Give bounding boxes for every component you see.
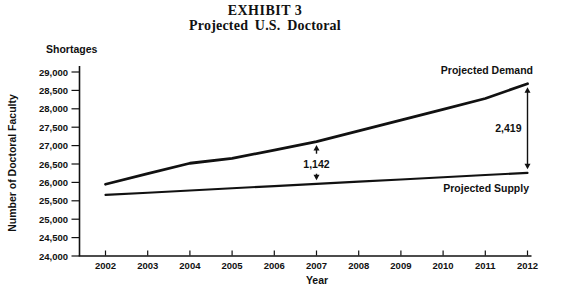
x-tick-label: 2011 bbox=[475, 260, 496, 271]
y-tick-label: 27,000 bbox=[39, 140, 68, 151]
annotation-label: 1,142 bbox=[303, 158, 329, 170]
x-tick-label: 2010 bbox=[433, 260, 454, 271]
annotation-label: 2,419 bbox=[495, 122, 521, 134]
y-tick-label: 28,500 bbox=[39, 85, 68, 96]
x-tick-label: 2003 bbox=[137, 260, 158, 271]
y-tick-label: 26,000 bbox=[39, 177, 68, 188]
x-tick-label: 2004 bbox=[179, 260, 201, 271]
y-tick-label: 25,500 bbox=[39, 195, 68, 206]
y-tick-label: 29,000 bbox=[39, 67, 68, 78]
y-tick-label: 26,500 bbox=[39, 159, 68, 170]
demand-series-label: Projected Demand bbox=[441, 64, 533, 76]
arrowhead-up-icon bbox=[314, 145, 320, 151]
x-axis-title: Year bbox=[306, 274, 328, 286]
y-axis-title: Number of Doctoral Faculty bbox=[6, 94, 18, 232]
arrowhead-up-icon bbox=[525, 87, 531, 93]
exhibit-figure: EXHIBIT 3 Projected U.S. Doctoral 29,000… bbox=[0, 0, 566, 291]
arrowhead-down-icon bbox=[525, 164, 531, 170]
y-tick-label: 24,500 bbox=[39, 232, 68, 243]
x-tick-label: 2006 bbox=[264, 260, 285, 271]
x-tick-label: 2007 bbox=[306, 260, 327, 271]
y-tick-label: 27,500 bbox=[39, 122, 68, 133]
y-tick-label: 24,000 bbox=[39, 251, 68, 262]
x-tick-label: 2009 bbox=[390, 260, 411, 271]
x-tick-label: 2005 bbox=[222, 260, 244, 271]
line-chart: 29,00028,50028,00027,50027,00026,50026,0… bbox=[0, 0, 566, 291]
x-tick-label: 2012 bbox=[517, 260, 538, 271]
plot-area: 29,00028,50028,00027,50027,00026,50026,0… bbox=[39, 66, 538, 271]
supply-series-label: Projected Supply bbox=[443, 182, 529, 194]
x-tick-label: 2008 bbox=[348, 260, 369, 271]
arrowhead-down-icon bbox=[314, 175, 320, 181]
y-tick-label: 28,000 bbox=[39, 103, 68, 114]
shortages-label: Shortages bbox=[46, 43, 98, 55]
x-tick-label: 2002 bbox=[95, 260, 116, 271]
y-tick-label: 25,000 bbox=[39, 214, 68, 225]
